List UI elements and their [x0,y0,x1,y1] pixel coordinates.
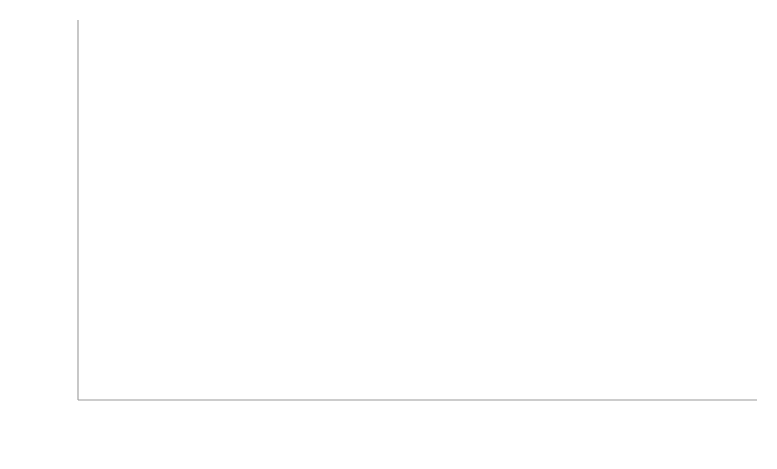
axis-lines [78,20,757,400]
scatter-chart [0,0,777,469]
chart-canvas [0,0,777,469]
